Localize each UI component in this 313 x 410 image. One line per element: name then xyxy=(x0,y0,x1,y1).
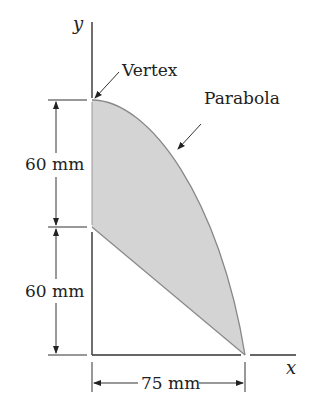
y-axis-label: y xyxy=(72,13,84,34)
vertex-label: Vertex xyxy=(121,60,178,80)
parabola-leader xyxy=(178,124,201,149)
vertex-leader xyxy=(95,72,119,98)
shaded-area xyxy=(92,100,245,355)
figure: y x Vertex Parabola 60 mm 60 mm 75 mm xyxy=(0,0,313,410)
lower-dimension-label: 60 mm xyxy=(25,281,84,301)
horizontal-dimension-label: 75 mm xyxy=(141,373,200,393)
upper-dimension-label: 60 mm xyxy=(25,154,84,174)
parabola-label: Parabola xyxy=(204,88,280,108)
x-axis-label: x xyxy=(286,357,296,378)
